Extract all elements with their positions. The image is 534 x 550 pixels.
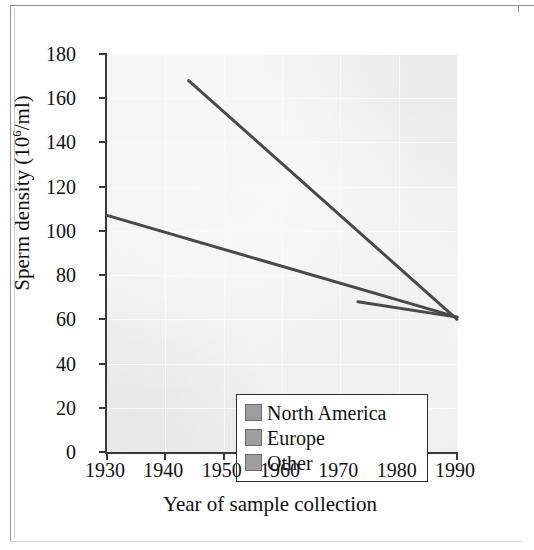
legend-label: North America <box>267 403 386 423</box>
y-tick-label: 80 <box>16 265 76 285</box>
x-axis-title: Year of sample collection <box>20 492 520 517</box>
y-tick-label: 180 <box>16 44 76 64</box>
y-tick-mark <box>99 274 107 276</box>
y-tick-mark <box>99 318 107 320</box>
legend-item: Europe <box>245 425 419 450</box>
y-tick-mark <box>99 186 107 188</box>
data-series-lines <box>107 54 457 452</box>
legend-label: Europe <box>267 428 325 448</box>
y-tick-mark <box>99 230 107 232</box>
y-tick-label: 60 <box>16 309 76 329</box>
legend-swatch-icon <box>245 404 262 421</box>
y-tick-mark <box>99 141 107 143</box>
y-tick-label: 160 <box>16 88 76 108</box>
scanned-page: Sperm density (106/ml) Year of sample co… <box>0 0 534 550</box>
y-tick-mark <box>99 53 107 55</box>
gridline-vertical <box>457 54 458 452</box>
x-tick-label: 1990 <box>420 460 490 480</box>
y-tick-label: 0 <box>16 442 76 462</box>
legend-swatch-icon <box>245 429 262 446</box>
plot-area: North AmericaEuropeOther <box>105 54 457 454</box>
y-tick-label: 140 <box>16 132 76 152</box>
line-chart-figure: Sperm density (106/ml) Year of sample co… <box>0 0 534 550</box>
series-line-north-america <box>189 81 457 320</box>
y-tick-label: 120 <box>16 177 76 197</box>
y-tick-mark <box>99 97 107 99</box>
y-tick-label: 100 <box>16 221 76 241</box>
y-tick-mark <box>99 363 107 365</box>
y-tick-mark <box>99 407 107 409</box>
legend-item: North America <box>245 400 419 425</box>
series-line-europe <box>107 215 457 317</box>
y-tick-label: 20 <box>16 398 76 418</box>
y-tick-label: 40 <box>16 354 76 374</box>
